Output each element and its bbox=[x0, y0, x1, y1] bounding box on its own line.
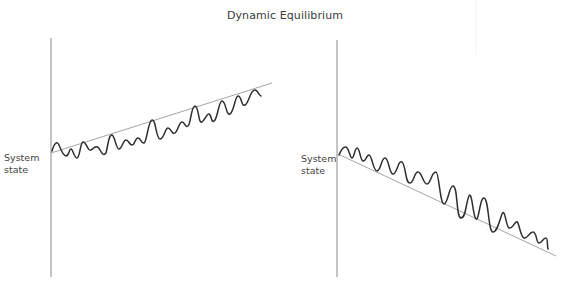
right-oscillation-curve bbox=[339, 147, 548, 249]
left-oscillation-curve bbox=[52, 90, 261, 158]
right-panel-falling-equilibrium bbox=[337, 40, 556, 277]
dynamic-equilibrium-diagram bbox=[0, 0, 570, 289]
left-panel-rising-equilibrium bbox=[51, 38, 272, 277]
right-trend-line bbox=[338, 154, 556, 256]
